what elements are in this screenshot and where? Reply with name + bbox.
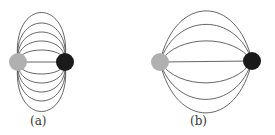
negative-charge bbox=[56, 53, 74, 71]
figure-b-label: (b) bbox=[190, 114, 207, 128]
positive-charge bbox=[9, 53, 27, 71]
positive-charge bbox=[151, 53, 169, 71]
figure-b bbox=[151, 11, 261, 113]
figure-a-label: (a) bbox=[30, 114, 47, 128]
figure-a bbox=[9, 13, 74, 112]
negative-charge bbox=[243, 52, 261, 70]
